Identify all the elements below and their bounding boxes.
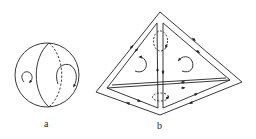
rotation-arrow-left-icon (22, 72, 32, 82)
rotation-arrow-right-icon (57, 64, 77, 86)
panel-a-sphere (15, 43, 79, 107)
dashed-loop-top-arrow-icon (166, 44, 167, 47)
inner-right-face (163, 23, 230, 108)
outer-bottom-right-edge (160, 82, 242, 115)
outer-right-edge (160, 12, 242, 82)
sphere-front-meridian (36, 43, 49, 107)
rotation-arrow-right-face-icon (179, 57, 193, 72)
panel-a-label: a (44, 119, 48, 129)
edge-arrow-inner-bottom-right-icon (194, 94, 197, 95)
sphere-back-meridian-dashed (49, 43, 62, 107)
dashed-loop-top (154, 31, 168, 51)
inner-left-face (107, 23, 158, 108)
sphere-outline (15, 43, 79, 107)
rotation-arrow-left-face-icon (135, 57, 146, 72)
panel-b-pyramid (96, 12, 242, 115)
panel-b-label: b (157, 121, 162, 131)
diagram-canvas (0, 0, 256, 139)
dashed-loop-bottom (153, 93, 169, 101)
outer-left-edge (96, 12, 160, 92)
